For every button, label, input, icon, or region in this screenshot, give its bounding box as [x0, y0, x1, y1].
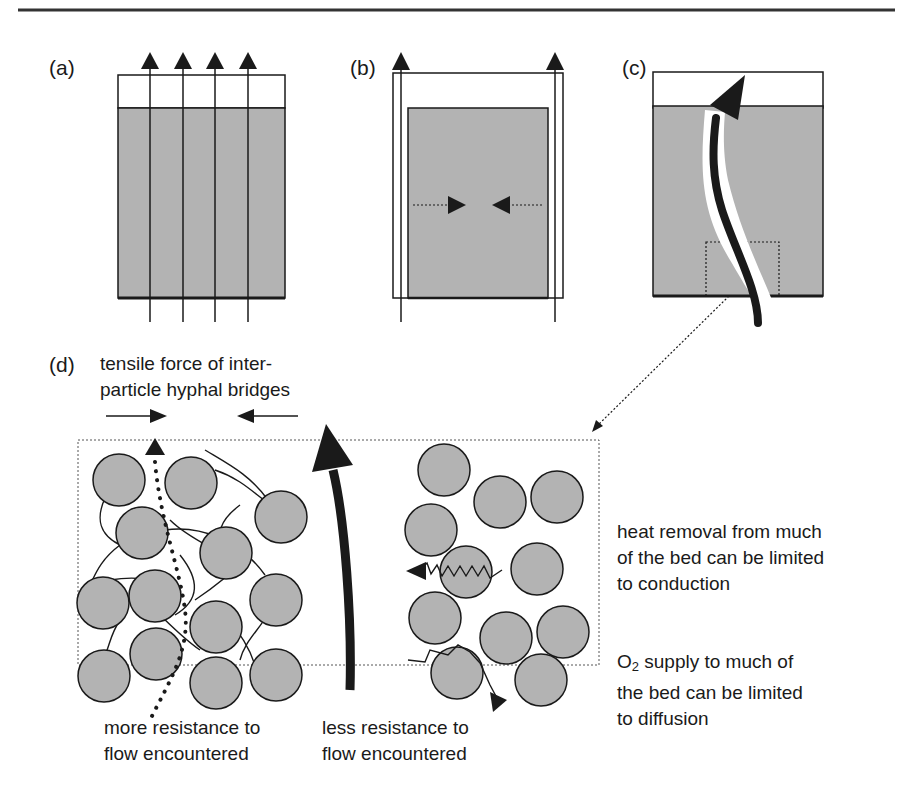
o2-supply-note: O2 supply to much of the bed can be limi…	[617, 649, 803, 732]
connector-line	[596, 296, 729, 427]
panel-d-zoom	[77, 409, 599, 720]
panel-label-b: (b)	[350, 56, 376, 80]
panel-b-bed	[392, 52, 564, 322]
panel-a-bed	[118, 52, 285, 322]
o2-line-3: to diffusion	[617, 706, 803, 732]
panel-label-a: (a)	[49, 56, 75, 80]
o2-line-1-rest: supply to much of	[639, 651, 793, 672]
tensile-line-2: particle hyphal bridges	[100, 377, 290, 403]
tensile-force-label: tensile force of inter- particle hyphal …	[100, 351, 290, 403]
panel-label-c: (c)	[622, 56, 647, 80]
more-resistance-label: more resistance to flow encountered	[104, 715, 260, 767]
heat-line-1: heat removal from much	[617, 519, 824, 545]
panel-label-d: (d)	[49, 353, 75, 377]
panel-c-bed	[653, 72, 823, 323]
heat-removal-note: heat removal from much of the bed can be…	[617, 519, 824, 597]
less-resistance-label: less resistance to flow encountered	[322, 715, 469, 767]
more-line-2: flow encountered	[104, 741, 260, 767]
tensile-line-1: tensile force of inter-	[100, 351, 290, 377]
more-line-1: more resistance to	[104, 715, 260, 741]
heat-line-3: to conduction	[617, 571, 824, 597]
less-line-1: less resistance to	[322, 715, 469, 741]
o2-symbol: O	[617, 651, 632, 672]
heat-line-2: of the bed can be limited	[617, 545, 824, 571]
o2-line-1: O2 supply to much of	[617, 649, 803, 680]
less-line-2: flow encountered	[322, 741, 469, 767]
o2-subscript: 2	[632, 659, 639, 674]
o2-line-2: the bed can be limited	[617, 680, 803, 706]
